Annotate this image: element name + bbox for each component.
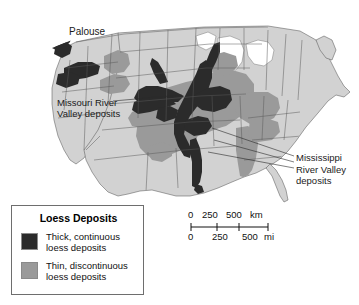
map-label-mississippi-river-valley: Mississippi River Valley deposits [296, 152, 356, 187]
legend-label-thick-line1: Thick, continuous [46, 231, 120, 242]
scale-mi-tick-250: 250 [212, 231, 228, 242]
legend-swatch-thin-loess [21, 262, 38, 279]
legend-title: Loess Deposits [12, 212, 145, 224]
map-label-missouri-line2: Valley deposits [57, 108, 120, 119]
legend-label-thin-line2: loess deposits [46, 271, 106, 282]
scale-bar-km-labels: 0 250 500 km [188, 209, 284, 221]
map-label-missouri-river-valley: Missouri River Valley deposits [57, 97, 120, 119]
map-label-palouse: Palouse [69, 26, 105, 37]
scale-mi-tick-0: 0 [188, 231, 193, 242]
scale-mi-tick-500: 500 [242, 231, 258, 242]
legend-label-thin-line1: Thin, discontinuous [46, 260, 128, 271]
map-scale-bar: 0 250 500 km 0 250 500 mi [188, 209, 284, 243]
legend-label-thin-loess: Thin, discontinuous loess deposits [46, 260, 128, 282]
scale-km-tick-500: 500 [226, 209, 242, 220]
legend-swatch-thick-loess [21, 233, 38, 250]
legend-label-thick-loess: Thick, continuous loess deposits [46, 231, 120, 253]
scale-bar-mi-labels: 0 250 500 mi [188, 231, 284, 243]
scale-km-tick-250: 250 [202, 209, 218, 220]
loess-deposits-map: Palouse Missouri River Valley deposits M… [0, 0, 359, 305]
scale-km-unit: km [250, 209, 263, 220]
map-label-missouri-line1: Missouri River [57, 97, 120, 108]
scale-mi-unit: mi [264, 231, 274, 242]
map-legend: Loess Deposits Thick, continuous loess d… [11, 205, 144, 295]
scale-km-tick-0: 0 [188, 209, 193, 220]
legend-label-thick-line2: loess deposits [46, 242, 106, 253]
